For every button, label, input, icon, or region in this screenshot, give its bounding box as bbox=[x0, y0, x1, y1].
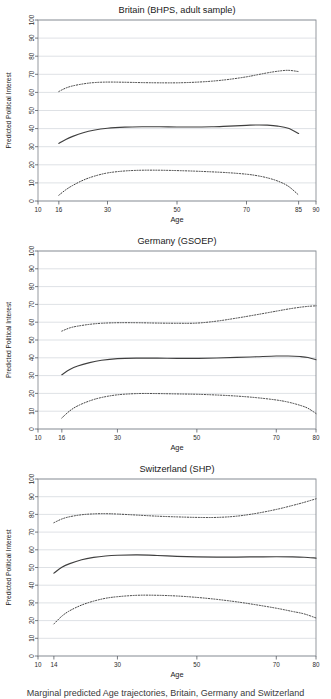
x-axis-title: Age bbox=[170, 443, 183, 452]
x-tick-label: 30 bbox=[104, 206, 112, 213]
series-line bbox=[59, 125, 299, 143]
y-tick-label: 40 bbox=[28, 125, 35, 133]
y-axis-title: Predicted Political Interest bbox=[5, 302, 12, 378]
y-tick-label: 100 bbox=[28, 473, 35, 484]
x-tick-label: 50 bbox=[193, 434, 201, 441]
x-tick-label: 16 bbox=[58, 434, 66, 441]
y-tick-label: 100 bbox=[28, 245, 35, 256]
chart-title: Britain (BHPS, adult sample) bbox=[119, 5, 236, 15]
x-tick-label: 16 bbox=[55, 206, 63, 213]
x-tick-label: 80 bbox=[312, 661, 320, 668]
y-tick-label: 40 bbox=[28, 581, 35, 589]
y-axis-title: Predicted Political Interest bbox=[5, 72, 12, 148]
y-tick-label: 10 bbox=[28, 634, 35, 642]
y-tick-label: 80 bbox=[28, 52, 35, 60]
y-tick-label: 50 bbox=[28, 336, 35, 344]
y-tick-label: 40 bbox=[28, 354, 35, 362]
series-line bbox=[62, 306, 316, 331]
y-tick-label: 60 bbox=[28, 546, 35, 554]
x-tick-label: 14 bbox=[50, 661, 58, 668]
y-tick-label: 0 bbox=[28, 199, 35, 203]
chart-svg-switzerland: Switzerland (SHP)0102030405060708090100P… bbox=[0, 461, 331, 688]
x-axis-title: Age bbox=[170, 670, 183, 679]
y-tick-label: 30 bbox=[28, 599, 35, 607]
y-tick-label: 90 bbox=[28, 265, 35, 273]
series-line bbox=[54, 499, 316, 523]
x-tick-label: 50 bbox=[193, 661, 201, 668]
series-line bbox=[62, 393, 316, 417]
x-tick-label: 70 bbox=[243, 206, 251, 213]
y-tick-label: 20 bbox=[28, 389, 35, 397]
chart-title: Germany (GSOEP) bbox=[137, 236, 216, 246]
y-tick-label: 100 bbox=[28, 14, 35, 25]
x-tick-label: 90 bbox=[312, 206, 320, 213]
y-tick-label: 50 bbox=[28, 107, 35, 115]
x-tick-label: 70 bbox=[273, 661, 281, 668]
y-tick-label: 80 bbox=[28, 510, 35, 518]
y-tick-label: 60 bbox=[28, 318, 35, 326]
chart-title: Switzerland (SHP) bbox=[139, 464, 214, 474]
y-axis-title: Predicted Political Interest bbox=[5, 529, 12, 605]
y-tick-label: 90 bbox=[28, 493, 35, 501]
series-line bbox=[54, 595, 316, 624]
y-tick-label: 60 bbox=[28, 88, 35, 96]
y-tick-label: 90 bbox=[28, 34, 35, 42]
figure-page: Britain (BHPS, adult sample)010203040506… bbox=[0, 0, 331, 699]
y-tick-label: 70 bbox=[28, 528, 35, 536]
y-tick-label: 30 bbox=[28, 372, 35, 380]
x-tick-label: 30 bbox=[114, 434, 122, 441]
y-tick-label: 80 bbox=[28, 283, 35, 291]
y-tick-label: 20 bbox=[28, 617, 35, 625]
y-tick-label: 10 bbox=[28, 407, 35, 415]
chart-panel-1: Germany (GSOEP)0102030405060708090100Pre… bbox=[0, 233, 331, 461]
x-tick-label: 50 bbox=[173, 206, 181, 213]
series-line bbox=[59, 70, 299, 91]
y-tick-label: 0 bbox=[28, 654, 35, 658]
chart-svg-germany: Germany (GSOEP)0102030405060708090100Pre… bbox=[0, 233, 331, 461]
chart-svg-britain: Britain (BHPS, adult sample)010203040506… bbox=[0, 0, 331, 233]
x-tick-label: 30 bbox=[114, 661, 122, 668]
x-tick-label: 80 bbox=[312, 434, 320, 441]
series-line bbox=[54, 555, 316, 573]
chart-panel-2: Switzerland (SHP)0102030405060708090100P… bbox=[0, 461, 331, 688]
y-tick-label: 20 bbox=[28, 161, 35, 169]
y-tick-label: 70 bbox=[28, 70, 35, 78]
x-tick-label: 10 bbox=[34, 434, 42, 441]
y-tick-label: 50 bbox=[28, 564, 35, 572]
x-tick-label: 10 bbox=[34, 661, 42, 668]
x-tick-label: 70 bbox=[273, 434, 281, 441]
figure-caption: Marginal predicted Age trajectories, Bri… bbox=[0, 688, 331, 699]
y-tick-label: 70 bbox=[28, 300, 35, 308]
y-tick-label: 30 bbox=[28, 143, 35, 151]
chart-panel-0: Britain (BHPS, adult sample)010203040506… bbox=[0, 0, 331, 233]
y-tick-label: 10 bbox=[28, 179, 35, 187]
x-axis-title: Age bbox=[170, 215, 183, 224]
series-line bbox=[62, 356, 316, 375]
x-tick-label: 85 bbox=[295, 206, 303, 213]
y-tick-label: 0 bbox=[28, 427, 35, 431]
x-tick-label: 10 bbox=[34, 206, 42, 213]
